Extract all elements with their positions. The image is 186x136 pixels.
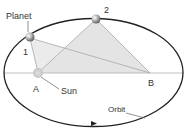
point-2-label: 2 xyxy=(104,5,109,15)
orbit-diagram: Planet 1 2 A Sun B Orbit xyxy=(0,0,186,136)
sun-leader-line xyxy=(41,77,59,89)
planet-position-1-icon xyxy=(26,33,35,42)
planet-position-2-icon xyxy=(92,15,101,24)
sun-label: Sun xyxy=(61,86,77,96)
orbit-leader-line xyxy=(126,113,145,118)
orbit-direction-arrow-icon xyxy=(91,121,97,126)
point-1-label: 1 xyxy=(23,47,28,57)
sun-icon xyxy=(33,68,43,78)
planet-label: Planet xyxy=(6,11,32,21)
focus-a-label: A xyxy=(33,84,39,94)
orbit-label: Orbit xyxy=(108,105,126,114)
focus-b-label: B xyxy=(148,78,154,88)
